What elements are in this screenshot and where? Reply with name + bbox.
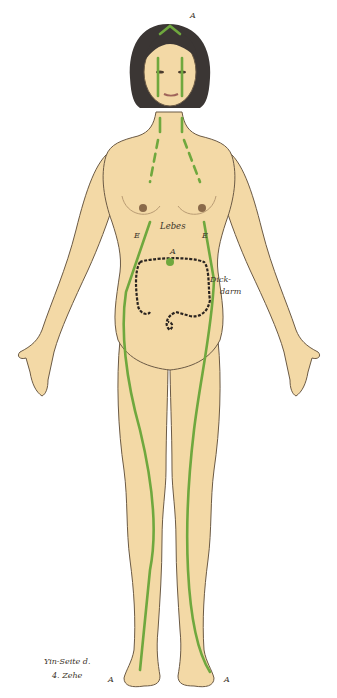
caption-line-2: 4. Zehe [52, 672, 82, 680]
label-right-e: E [202, 232, 208, 240]
label-head-point: A [190, 12, 196, 20]
label-left-e: E [134, 232, 140, 240]
label-colon-2: darm [220, 288, 241, 296]
label-colon-1: Dick- [210, 276, 231, 284]
label-stomach: Lebes [160, 222, 186, 231]
nipple-left [139, 204, 147, 212]
right-arm [222, 150, 320, 396]
caption-line-1: Yin-Seite d. [44, 658, 90, 666]
label-navel-point: A [170, 248, 176, 256]
nipple-right [198, 204, 206, 212]
navel-point [166, 258, 174, 266]
label-left-toe-point: A [108, 676, 114, 684]
left-arm [18, 150, 116, 396]
body-meridian-illustration [0, 0, 337, 698]
label-right-toe-point: A [224, 676, 230, 684]
